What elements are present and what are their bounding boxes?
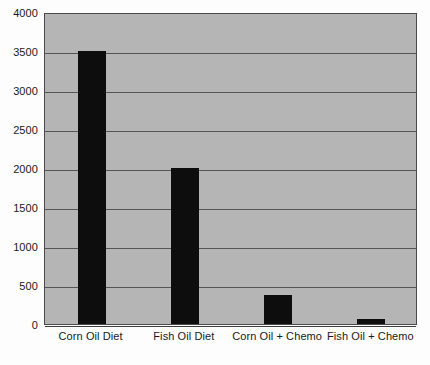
bar[interactable] — [171, 168, 199, 324]
y-tick-label: 0 — [0, 320, 38, 331]
bar[interactable] — [357, 319, 385, 324]
x-axis: Corn Oil DietFish Oil DietCorn Oil + Che… — [44, 330, 417, 364]
y-tick-label: 500 — [0, 281, 38, 292]
y-tick-label: 3500 — [0, 47, 38, 58]
bar-chart-figure: 40003500300025002000150010005000 Corn Oi… — [0, 0, 430, 365]
y-axis: 40003500300025002000150010005000 — [0, 0, 38, 365]
bar-slot — [45, 14, 138, 324]
bar-slot — [325, 14, 418, 324]
bar-slot — [232, 14, 325, 324]
plot-area — [44, 13, 417, 325]
y-tick-label: 2500 — [0, 125, 38, 136]
y-tick-label: 1500 — [0, 203, 38, 214]
bar-slot — [138, 14, 231, 324]
bars-layer — [45, 14, 416, 324]
y-tick-label: 1000 — [0, 242, 38, 253]
bar[interactable] — [78, 51, 106, 324]
y-tick-label: 2000 — [0, 164, 38, 175]
y-tick-label: 4000 — [0, 8, 38, 19]
axis-baseline — [45, 326, 416, 327]
y-tick-label: 3000 — [0, 86, 38, 97]
x-tick-label: Fish Oil + Chemo — [315, 330, 425, 343]
bar[interactable] — [264, 295, 292, 324]
